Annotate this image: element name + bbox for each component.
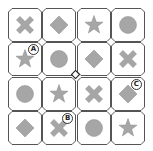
cell-r1-c3[interactable] [77,8,111,42]
circle-icon [17,85,34,102]
cell-r1-c2[interactable] [42,8,76,42]
cell-r1-c4[interactable] [111,8,145,42]
center-diamond-marker [71,70,80,79]
circle-icon [85,119,102,136]
cell-r4-c4[interactable] [111,111,145,145]
cell-r2-c1[interactable]: A [8,42,42,76]
circle-icon [119,17,136,34]
cell-r4-c2[interactable]: B [42,111,76,145]
cell-r4-c1[interactable] [8,111,42,145]
cell-r1-c1[interactable] [8,8,42,42]
cell-r3-c2[interactable] [42,77,76,111]
cell-r2-c4[interactable] [111,42,145,76]
cell-r3-c1[interactable] [8,77,42,111]
cell-r3-c3[interactable] [77,77,111,111]
cell-r3-c4[interactable]: C [111,77,145,111]
circle-icon [51,51,68,68]
cell-badge: C [131,79,142,90]
cell-r2-c3[interactable] [77,42,111,76]
cell-badge: B [62,113,73,124]
cell-r4-c3[interactable] [77,111,111,145]
